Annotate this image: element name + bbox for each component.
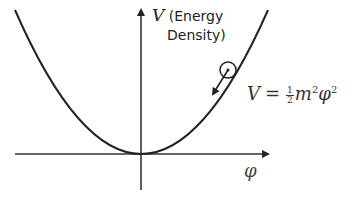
v-description-line2: Density) <box>167 26 226 45</box>
fraction-denominator: 2 <box>286 96 294 105</box>
equation-lhs: V <box>247 83 260 104</box>
equation-m: m <box>295 83 312 104</box>
equation-equals: = <box>265 83 280 104</box>
v-description-line1: (Energy <box>169 8 223 24</box>
equation-phi: φ <box>318 83 331 104</box>
equation-phi-exponent: 2 <box>331 84 337 95</box>
potential-equation: V=12m2φ2 <box>247 83 337 105</box>
equation-fraction: 12 <box>286 86 294 105</box>
fraction-numerator: 1 <box>286 86 294 96</box>
phi-axis-label: φ <box>244 160 257 181</box>
v-symbol: V <box>152 5 164 25</box>
v-axis-label: V (Energy <box>152 6 223 26</box>
